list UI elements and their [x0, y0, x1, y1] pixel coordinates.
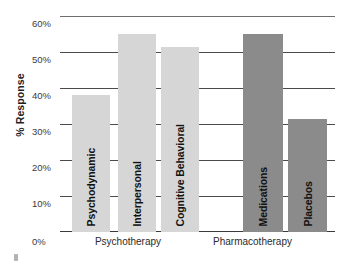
scan-artifact-mark [14, 254, 18, 261]
bar-cognitive-behavioral[interactable]: Cognitive Behavioral [161, 47, 199, 232]
y-tick-label-20: 20% [32, 162, 58, 173]
group-label-psychotherapy: Psychotherapy [78, 236, 178, 247]
bar-chart: % Response 60% 50% 40% 30% 20% 10% 0% Ps… [0, 0, 344, 264]
bar-interpersonal[interactable]: Interpersonal [118, 34, 156, 232]
bar-label-placebos: Placebos [302, 181, 313, 226]
bar-psychodynamic[interactable]: Psychodynamic [72, 95, 110, 232]
gridline-60 [60, 16, 335, 17]
bar-medications[interactable]: Medications [243, 34, 283, 232]
y-tick-label-0: 0% [32, 236, 46, 247]
bar-placebos[interactable]: Placebos [288, 119, 327, 232]
bar-label-interpersonal: Interpersonal [132, 161, 143, 226]
bar-label-psychodynamic: Psychodynamic [86, 147, 97, 226]
y-axis-title: % Response [11, 45, 29, 165]
bar-label-cognitive-behavioral: Cognitive Behavioral [175, 124, 186, 226]
plot-area: Psychodynamic Interpersonal Cognitive Be… [60, 16, 335, 232]
y-tick-label-30: 30% [32, 126, 58, 137]
y-tick-label-60: 60% [32, 18, 58, 29]
y-tick-label-40: 40% [32, 90, 58, 101]
y-tick-label-10: 10% [32, 198, 58, 209]
bar-label-medications: Medications [258, 166, 269, 226]
group-label-pharmacotherapy: Pharmacotherapy [195, 236, 310, 247]
y-tick-label-50: 50% [32, 54, 58, 65]
